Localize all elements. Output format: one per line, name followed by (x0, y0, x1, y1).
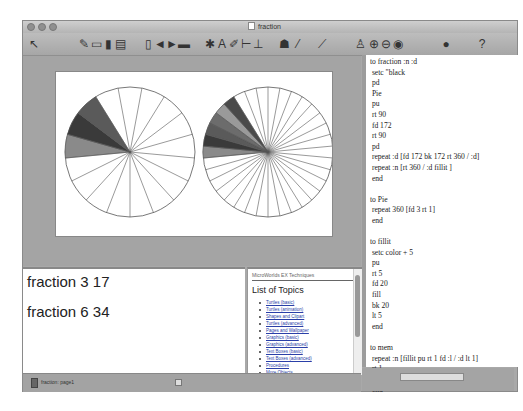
eraser-tool-icon[interactable]: ⁄ (291, 37, 305, 51)
pointer-tool-icon[interactable]: ↖ (27, 37, 41, 51)
procedures-text[interactable]: to fraction :n :d setc "black pd Pie pu … (366, 55, 518, 396)
topic-link[interactable]: Turtles (advanced) (266, 320, 362, 327)
title-bar: fraction (23, 21, 517, 33)
scroll-thumb[interactable] (355, 275, 360, 337)
minimize-button[interactable] (38, 23, 46, 31)
page-tool-icon[interactable]: ▬ (177, 37, 191, 51)
project-icon (31, 378, 38, 388)
pie-2 (203, 87, 332, 217)
status-bar: fraction: page1 (23, 373, 361, 392)
stop-tool-icon[interactable]: ● (439, 37, 453, 51)
close-button[interactable] (27, 23, 35, 31)
procedures-footer (362, 368, 514, 391)
page-icon[interactable] (175, 379, 182, 386)
pie-1 (65, 87, 195, 217)
app-window: fraction ↖✎▭▮▤▯◄►▬✱A✐⊢⊥☗⁄⟋♙⊕⊖◉●? fractio… (22, 20, 518, 392)
command-center[interactable]: fraction 3 17 fraction 6 34 (23, 267, 245, 375)
print-tool-icon[interactable]: ▤ (113, 37, 127, 51)
topic-link[interactable]: Shapes and Clipart (266, 313, 362, 320)
stamp-tool-icon[interactable]: ♙ (353, 37, 367, 51)
command-line[interactable]: fraction 3 17 (27, 273, 110, 290)
help-tool-icon[interactable]: ? (475, 37, 489, 51)
topic-link[interactable]: Text Boxes (basic) (266, 348, 362, 355)
magic-wand-tool-icon[interactable]: ⟋ (315, 37, 329, 51)
command-line[interactable]: fraction 6 34 (27, 303, 110, 320)
help-scrollbar[interactable] (353, 269, 362, 375)
topic-link[interactable]: Turtles (basic) (266, 299, 362, 306)
topic-link[interactable]: Turtles (animation) (266, 306, 362, 313)
topic-link[interactable]: Graphics (basic) (266, 334, 362, 341)
topic-link[interactable]: Pages and Wallpaper (266, 327, 362, 334)
eye-tool-icon[interactable]: ◉ (391, 37, 405, 51)
window-title: fraction (248, 22, 281, 30)
help-panel: MicroWorlds EX Techniques List of Topics… (247, 267, 362, 375)
document-icon (248, 22, 255, 30)
help-title: List of Topics (252, 285, 358, 295)
button-tool-icon[interactable]: ⊥ (251, 37, 265, 51)
topic-list: Turtles (basic)Turtles (animation)Shapes… (248, 299, 362, 375)
topic-link[interactable]: Text Boxes (advanced) (266, 355, 362, 362)
help-header: MicroWorlds EX Techniques (252, 272, 358, 281)
hatch-tool-icon[interactable]: ☗ (277, 37, 291, 51)
drawing-area[interactable] (55, 71, 333, 237)
topic-link[interactable]: Graphics (advanced) (266, 341, 362, 348)
status-text: fraction: page1 (41, 379, 74, 385)
toolbar: ↖✎▭▮▤▯◄►▬✱A✐⊢⊥☗⁄⟋♙⊕⊖◉●? (23, 33, 517, 56)
window-controls (27, 23, 57, 31)
pie-drawing (56, 72, 332, 236)
zoom-button[interactable] (49, 23, 57, 31)
topic-link[interactable]: Procedures (266, 362, 362, 369)
view-controls[interactable] (400, 373, 464, 381)
procedures-pane[interactable]: to fraction :n :d setc "black pd Pie pu … (362, 55, 518, 367)
page-canvas[interactable] (23, 56, 361, 266)
